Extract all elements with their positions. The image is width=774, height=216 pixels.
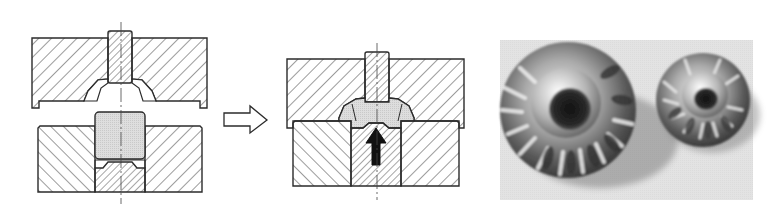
gear-small [656,53,750,147]
photo-forged-gears [500,40,760,200]
forging-diagram-figure: Upper die Punch Lower die Billet Ejector… [0,0,774,216]
ejector [95,162,145,192]
punch [108,31,132,83]
gear-large [500,42,636,178]
process-arrow-icon [224,106,267,133]
panel-after [287,43,464,200]
panel-before [32,22,207,204]
billet [95,112,145,159]
